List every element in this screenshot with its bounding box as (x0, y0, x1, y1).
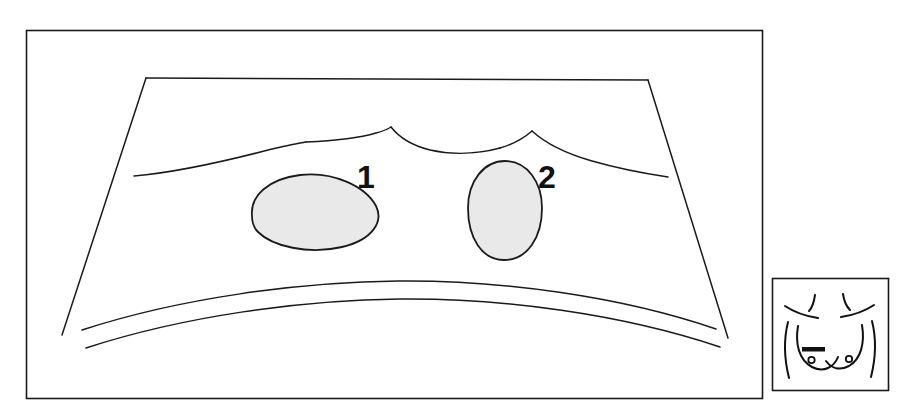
ultrasound-schematic-svg: 1 2 (0, 0, 899, 419)
lesion-2[interactable] (468, 161, 542, 260)
ultrasound-image-frame (27, 31, 763, 399)
nipple-marker-right (846, 356, 852, 362)
transducer-position-bar[interactable] (802, 347, 825, 352)
figure-root: 1 2 (0, 0, 899, 419)
nipple-marker-left (808, 357, 814, 363)
lesion-1-label: 1 (357, 159, 375, 195)
lesion-2-label: 2 (538, 159, 556, 195)
body-marker-inset (773, 279, 889, 391)
